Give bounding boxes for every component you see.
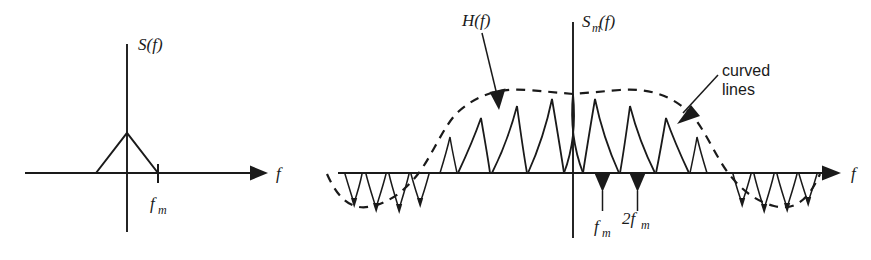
svg-text:curved: curved xyxy=(722,62,770,79)
svg-text:m: m xyxy=(158,203,167,217)
svg-text:f: f xyxy=(594,217,601,236)
left-panel-group: S(f) f f m xyxy=(25,35,283,232)
left-tick-label-fm: f m xyxy=(150,194,167,217)
svg-text:m: m xyxy=(641,218,650,232)
svg-text:m: m xyxy=(602,226,611,240)
right-tick-label-2fm: 2f m xyxy=(622,209,650,232)
svg-text:(f): (f) xyxy=(599,12,615,31)
svg-text:S: S xyxy=(582,12,591,31)
left-signal-label: S(f) xyxy=(138,35,163,54)
spectrum-figure-svg: S(f) f f m xyxy=(0,0,871,260)
right-panel-group: H(f) S m (f) curved lines f f m 2f m xyxy=(327,11,858,240)
svg-text:2f: 2f xyxy=(622,209,638,228)
hf-label: H(f) xyxy=(461,11,491,30)
tick-marker-2fm xyxy=(629,172,646,211)
left-axis-label: f xyxy=(276,164,283,183)
curved-lines-annotation: curved lines xyxy=(722,62,770,98)
hf-leader-arrow xyxy=(482,33,506,110)
sm-label: S m (f) xyxy=(582,12,615,35)
svg-text:f: f xyxy=(150,194,157,213)
right-tick-label-fm: f m xyxy=(594,217,611,240)
curved-lines-leader-arrow xyxy=(677,75,718,124)
negative-spikes-right xyxy=(733,174,817,214)
negative-spikes-left xyxy=(345,174,429,214)
svg-text:lines: lines xyxy=(722,81,755,98)
left-horizontal-axis xyxy=(25,166,268,181)
tick-marker-fm xyxy=(594,172,611,211)
figure-root: S(f) f f m xyxy=(0,0,871,260)
right-axis-label: f xyxy=(851,164,858,183)
